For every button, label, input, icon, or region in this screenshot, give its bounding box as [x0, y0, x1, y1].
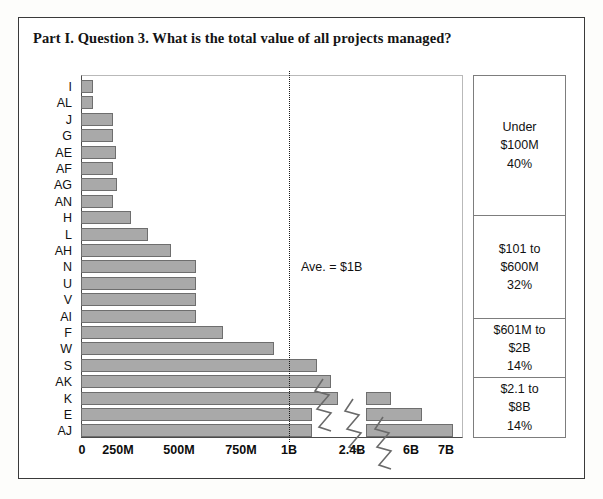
bar-category-label: K: [64, 392, 72, 405]
legend-segment: $2.1 to$8B14%: [474, 378, 565, 437]
bar-segment: [81, 260, 196, 273]
bar-category-label: AI: [60, 310, 72, 323]
figure-frame: Part I. Question 3. What is the total va…: [18, 17, 585, 479]
bar-category-label: J: [66, 114, 72, 127]
bar-row: J: [81, 112, 463, 128]
distribution-legend-box: Under$100M40%$101 to$600M32%$601M to$2B1…: [473, 75, 566, 438]
bar-row: AG: [81, 177, 463, 193]
bar-segment: [81, 326, 223, 339]
bar-category-label: AJ: [57, 425, 72, 438]
bar-category-label: AE: [55, 146, 72, 159]
bar-category-label: AN: [55, 196, 72, 209]
bar-row: AN: [81, 194, 463, 210]
bar-row: G: [81, 128, 463, 144]
legend-line: 14%: [507, 357, 532, 375]
bar-row: AH: [81, 243, 463, 259]
bar-category-label: AK: [55, 376, 72, 389]
bar-category-label: U: [63, 278, 72, 291]
bar-segment: [81, 129, 113, 142]
bar-row: K: [81, 391, 463, 407]
legend-line: 32%: [507, 276, 532, 294]
x-axis-tick: 750M: [225, 443, 256, 457]
bar-segment-beyond-break: [366, 408, 422, 421]
average-label: Ave. = $1B: [301, 260, 362, 274]
legend-line: $8B: [508, 398, 530, 416]
bar-row: AE: [81, 145, 463, 161]
bar-category-label: AG: [54, 179, 72, 192]
bar-segment: [81, 162, 113, 175]
bar-category-label: F: [64, 327, 72, 340]
x-axis-tick: 7B: [438, 443, 454, 457]
legend-segment: $101 to$600M32%: [474, 216, 565, 319]
bar-row: L: [81, 227, 463, 243]
x-axis-tick: 250M: [102, 443, 133, 457]
bar-segment: [81, 80, 93, 93]
legend-line: 14%: [507, 417, 532, 435]
x-axis-tick: 1B: [281, 443, 297, 457]
bar-segment: [81, 424, 312, 437]
bar-segment: [81, 96, 93, 109]
legend-line: $601M to: [493, 321, 545, 339]
bar-category-label: S: [64, 360, 72, 373]
bar-row: AF: [81, 161, 463, 177]
bar-row: AI: [81, 309, 463, 325]
bar-category-label: AH: [55, 245, 72, 258]
bar-row: F: [81, 325, 463, 341]
bar-row: W: [81, 341, 463, 357]
bar-category-label: AF: [56, 163, 72, 176]
average-line: [289, 71, 290, 442]
legend-segment: $601M to$2B14%: [474, 319, 565, 378]
bar-segment: [81, 359, 317, 372]
bar-row: H: [81, 210, 463, 226]
bar-segment: [81, 408, 312, 421]
bar-segment: [81, 113, 113, 126]
bar-row: S: [81, 358, 463, 374]
bar-segment: [81, 342, 274, 355]
bar-segment: [81, 195, 113, 208]
x-axis-tick: 6B: [403, 443, 419, 457]
legend-line: 40%: [507, 155, 532, 173]
bar-segment: [81, 244, 171, 257]
bar-row: AL: [81, 95, 463, 111]
x-axis-tick: 500M: [163, 443, 194, 457]
bar-row: E: [81, 407, 463, 423]
legend-line: $100M: [500, 136, 538, 154]
chart-page: Part I. Question 3. What is the total va…: [0, 0, 603, 499]
legend-line: Under: [502, 118, 536, 136]
bar-segment: [81, 293, 196, 306]
bar-category-label: W: [60, 343, 72, 356]
bar-row: V: [81, 292, 463, 308]
bar-category-label: H: [63, 212, 72, 225]
bar-segment: [81, 277, 196, 290]
bar-category-label: G: [62, 130, 72, 143]
legend-line: $2.1 to: [500, 380, 538, 398]
legend-line: $600M: [500, 258, 538, 276]
bar-category-label: L: [65, 228, 72, 241]
bar-row: AK: [81, 374, 463, 390]
x-axis-tick: 2.4B: [339, 443, 365, 457]
bar-segment: [81, 211, 131, 224]
bar-segment: [81, 228, 148, 241]
bar-segment: [81, 310, 196, 323]
bar-category-label: N: [63, 261, 72, 274]
bar-segment: [81, 146, 116, 159]
x-axis-tick: 0: [79, 443, 86, 457]
chart-title: Part I. Question 3. What is the total va…: [33, 30, 452, 47]
legend-segment: Under$100M40%: [474, 76, 565, 216]
plot-area: IALJGAEAFAGANHLAHNUVAIFWSAKKEAJ Ave. = $…: [81, 75, 463, 438]
bar-category-label: V: [64, 294, 72, 307]
bar-category-label: E: [64, 409, 72, 422]
legend-line: $2B: [508, 339, 530, 357]
bar-segment: [81, 178, 117, 191]
bar-category-label: AL: [57, 97, 72, 110]
bar-row: U: [81, 276, 463, 292]
bar-category-label: I: [69, 81, 72, 94]
bar-segment: [81, 392, 338, 405]
bar-segment-beyond-break: [366, 424, 453, 437]
bar-segment-beyond-break: [366, 392, 391, 405]
bar-row: N: [81, 259, 463, 275]
bar-row: AJ: [81, 423, 463, 439]
bar-row: I: [81, 79, 463, 95]
bar-segment: [81, 375, 331, 388]
legend-line: $101 to: [499, 240, 541, 258]
